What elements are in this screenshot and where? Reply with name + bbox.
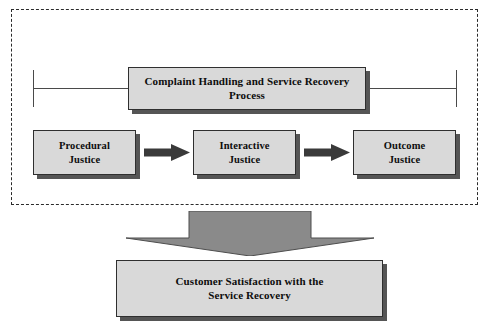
node-complaint-handling-process[interactable]: Complaint Handling and Service Recovery …: [128, 67, 366, 110]
node-procedural-justice[interactable]: Procedural Justice: [33, 130, 136, 175]
right-arrow-icon: [144, 144, 190, 161]
node-label-wrap: Complaint Handling and Service Recovery …: [145, 75, 350, 103]
node-customer-satisfaction[interactable]: Customer Satisfaction with the Service R…: [116, 260, 383, 317]
node-label-line2: Justice: [69, 154, 101, 165]
node-label-line1: Interactive: [219, 140, 269, 151]
right-arrow-icon: [304, 144, 350, 161]
node-label-wrap: Interactive Justice: [219, 139, 269, 165]
node-label-line2: Process: [229, 89, 265, 101]
node-label-line2: Justice: [229, 154, 261, 165]
node-label-wrap: Outcome Justice: [384, 139, 426, 165]
diagram-canvas: Complaint Handling and Service Recovery …: [0, 0, 489, 331]
node-interactive-justice[interactable]: Interactive Justice: [193, 130, 296, 175]
node-label-wrap: Customer Satisfaction with the Service R…: [176, 275, 324, 303]
node-label-line2: Justice: [389, 154, 421, 165]
node-label-wrap: Procedural Justice: [59, 139, 110, 165]
span-bracket-tick-right: [456, 70, 457, 107]
span-bracket-tick-left: [33, 70, 34, 107]
node-label-line1: Complaint Handling and Service Recovery: [145, 75, 350, 87]
node-outcome-justice[interactable]: Outcome Justice: [353, 130, 456, 175]
node-label-line2: Service Recovery: [208, 289, 291, 301]
node-label-line1: Outcome: [384, 140, 426, 151]
down-arrow-icon: [126, 211, 374, 256]
node-label-line1: Procedural: [59, 140, 110, 151]
node-label-line1: Customer Satisfaction with the: [176, 275, 324, 287]
